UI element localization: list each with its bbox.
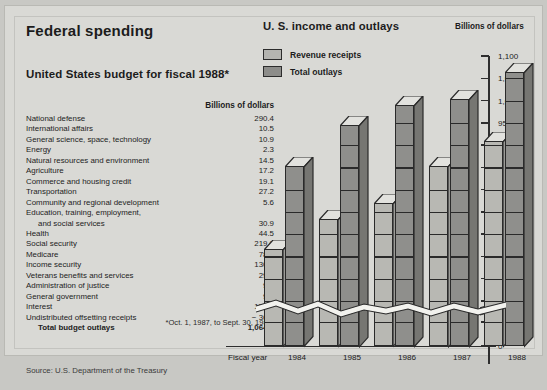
- bar-side-face: [524, 63, 535, 348]
- bar-front-face: [319, 219, 338, 346]
- y-axis-tick: [481, 122, 489, 123]
- bar-segment-rule: [375, 256, 392, 257]
- left-column: Federal spending: [26, 22, 256, 39]
- bar-segment-rule: [506, 322, 523, 323]
- bar-segment-rule: [430, 322, 447, 323]
- bar-segment-rule: [485, 256, 502, 257]
- bar-segment-rule: [265, 322, 282, 323]
- bar-segment-rule: [485, 322, 502, 323]
- bar-segment-rule: [506, 279, 523, 280]
- bar-segment-rule: [430, 190, 447, 191]
- bar-segment-rule: [430, 256, 447, 257]
- bar-segment-rule: [375, 212, 392, 213]
- bar-front-face: [505, 72, 524, 346]
- bar-segment-rule: [396, 256, 413, 257]
- table-row-label: General science, space, technology: [26, 135, 151, 145]
- bar-segment-rule: [506, 78, 523, 79]
- bar-segment-rule: [286, 234, 303, 235]
- bar-segment-rule: [485, 167, 502, 168]
- bar-segment-rule: [341, 190, 358, 191]
- bar-segment-rule: [341, 322, 358, 323]
- bar-segment-rule: [506, 256, 523, 257]
- axis-break-ribbon: [256, 292, 506, 320]
- bar-segment-rule: [286, 190, 303, 191]
- bar-segment-rule: [396, 167, 413, 168]
- table-row-label: Education, training, employment,: [26, 208, 141, 218]
- bar-segment-rule: [341, 256, 358, 257]
- y-axis-tick: [481, 55, 489, 56]
- bar-segment-rule: [485, 279, 502, 280]
- bar-segment-rule: [286, 279, 303, 280]
- bar-segment-rule: [506, 301, 523, 302]
- table-row-label: Interest: [26, 302, 52, 312]
- x-axis-label: Fiscal year: [228, 353, 267, 362]
- bar-segment-rule: [320, 279, 337, 280]
- bar-segment-rule: [375, 322, 392, 323]
- table-row-label: Commerce and housing credit: [26, 177, 131, 187]
- bar-segment-rule: [451, 145, 468, 146]
- y-axis-tick: [481, 78, 489, 79]
- table-row-label: Income security: [26, 260, 81, 270]
- bar-segment-rule: [485, 145, 502, 146]
- x-axis-tick-label: 1986: [387, 353, 427, 362]
- bar-segment-rule: [341, 167, 358, 168]
- bar-segment-rule: [506, 101, 523, 102]
- table-row-label: Administration of justice: [26, 281, 109, 291]
- table-row-label: Health: [26, 229, 49, 239]
- bar-segment-rule: [286, 322, 303, 323]
- bar-segment-rule: [341, 234, 358, 235]
- bar-segment-rule: [485, 212, 502, 213]
- bar-segment-rule: [396, 145, 413, 146]
- bar-1985-revenue: [319, 219, 338, 346]
- bar-segment-rule: [430, 212, 447, 213]
- bar-segment-rule: [341, 279, 358, 280]
- table-row-label: Social security: [26, 239, 77, 249]
- bar-segment-rule: [320, 234, 337, 235]
- bar-segment-rule: [375, 279, 392, 280]
- source-note: Source: U.S. Department of the Treasury: [26, 366, 167, 375]
- bar-segment-rule: [451, 322, 468, 323]
- bar-segment-rule: [506, 212, 523, 213]
- y-axis-tick: [481, 100, 489, 101]
- table-row-label: and social services: [26, 219, 105, 229]
- table-row-label: International affairs: [26, 124, 93, 134]
- bar-segment-rule: [506, 234, 523, 235]
- bar-segment-rule: [396, 123, 413, 124]
- x-axis-tick-label: 1985: [332, 353, 372, 362]
- table-row-label: Community and regional development: [26, 198, 159, 208]
- table-row-label: Veterans benefits and services: [26, 271, 133, 281]
- bar-segment-rule: [430, 279, 447, 280]
- table-row-label: Natural resources and environment: [26, 156, 149, 166]
- bar-segment-rule: [506, 123, 523, 124]
- bar-segment-rule: [341, 212, 358, 213]
- bar-segment-rule: [396, 279, 413, 280]
- bar-1988-outlays: [505, 72, 524, 346]
- bar-segment-rule: [485, 190, 502, 191]
- chart-plot-area: Fiscal year 1,1001,0501,0009509008508007…: [226, 40, 536, 355]
- chart-units-label: Billions of dollars: [455, 22, 524, 31]
- bar-segment-rule: [485, 234, 502, 235]
- bar-1986-revenue: [374, 203, 393, 346]
- y-axis-tick-label: 1,100: [498, 52, 518, 61]
- bar-front-face: [374, 203, 393, 346]
- table-row-label: Agriculture: [26, 166, 64, 176]
- bar-segment-rule: [286, 212, 303, 213]
- bar-segment-rule: [286, 256, 303, 257]
- table-row-label: Transportation: [26, 187, 77, 197]
- bar-segment-rule: [451, 212, 468, 213]
- bar-segment-rule: [506, 145, 523, 146]
- bar-segment-rule: [265, 279, 282, 280]
- bar-segment-rule: [506, 190, 523, 191]
- bar-segment-rule: [265, 256, 282, 257]
- bar-segment-rule: [320, 322, 337, 323]
- table-row-label: General government: [26, 292, 98, 302]
- table-row-label: National defense: [26, 114, 85, 124]
- bar-segment-rule: [430, 234, 447, 235]
- table-row-label: Medicare: [26, 250, 58, 260]
- x-axis-tick-label: 1987: [442, 353, 482, 362]
- bar-segment-rule: [396, 234, 413, 235]
- bar-segment-rule: [341, 145, 358, 146]
- bar-segment-rule: [451, 167, 468, 168]
- bar-segment-rule: [506, 167, 523, 168]
- x-axis-tick-label: 1984: [277, 353, 317, 362]
